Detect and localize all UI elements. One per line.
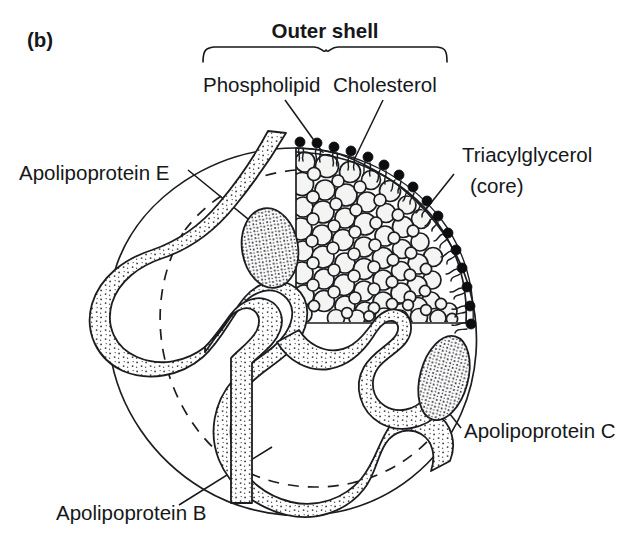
phospholipid-label: Phospholipid xyxy=(203,73,320,96)
outer-shell-label: Outer shell xyxy=(271,19,378,42)
leader-cholesterol xyxy=(354,100,383,160)
triacylglycerol-core-sublabel: (core) xyxy=(470,174,524,197)
figure-panel-b: (b) Outer shell Phospholipid Cholesterol… xyxy=(0,0,626,547)
cholesterol-label: Cholesterol xyxy=(333,73,437,96)
apolipoprotein-e-label: Apolipoprotein E xyxy=(19,161,169,184)
apolipoprotein-c-label: Apolipoprotein C xyxy=(464,419,616,442)
apo-b-hairpin xyxy=(205,298,282,503)
apolipoprotein-b-label: Apolipoprotein B xyxy=(56,501,206,524)
outer-shell-brace xyxy=(203,47,447,62)
triacylglycerol-label: Triacylglycerol xyxy=(462,143,592,166)
lipoprotein-diagram-svg: (b) Outer shell Phospholipid Cholesterol… xyxy=(0,0,626,547)
panel-tag: (b) xyxy=(27,28,53,51)
